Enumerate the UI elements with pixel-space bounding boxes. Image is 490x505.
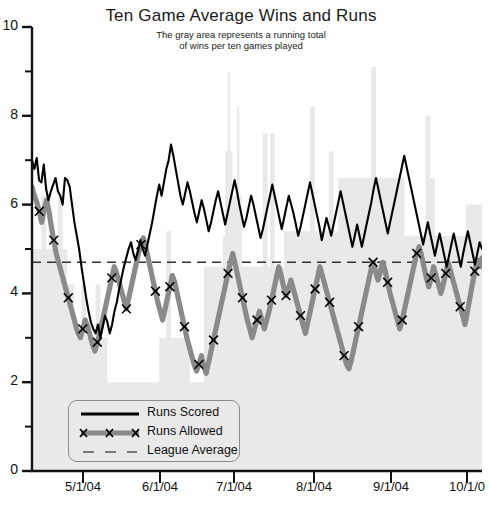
legend-label-runs-allowed: Runs Allowed <box>147 424 223 438</box>
legend-label-league-average: League Average <box>147 443 238 457</box>
x-tick-label: 10/1/0 <box>432 479 490 494</box>
legend-swatch-solid-line <box>79 404 141 424</box>
x-tick-label: 8/1/04 <box>279 479 349 494</box>
y-tick-label: 2 <box>0 372 18 388</box>
legend-label-runs-scored: Runs Scored <box>147 405 219 419</box>
x-tick-label: 5/1/04 <box>48 479 118 494</box>
legend-swatch-dashed-line <box>79 442 141 462</box>
x-tick-label: 9/1/04 <box>356 479 426 494</box>
legend-item-league-average[interactable]: League Average <box>69 442 239 462</box>
legend-swatch-gray-x-line <box>79 423 141 443</box>
y-tick-label: 10 <box>0 17 18 33</box>
legend-item-runs-scored[interactable]: Runs Scored <box>69 404 239 424</box>
y-tick-label: 4 <box>0 283 18 299</box>
x-tick-label: 7/1/04 <box>199 479 269 494</box>
x-tick-label: 6/1/04 <box>125 479 195 494</box>
y-tick-label: 6 <box>0 195 18 211</box>
y-tick-label: 0 <box>0 461 18 477</box>
legend-item-runs-allowed[interactable]: Runs Allowed <box>69 423 239 443</box>
chart-legend[interactable]: Runs Scored Runs Allowed League Average <box>68 400 240 462</box>
y-tick-label: 8 <box>0 106 18 122</box>
